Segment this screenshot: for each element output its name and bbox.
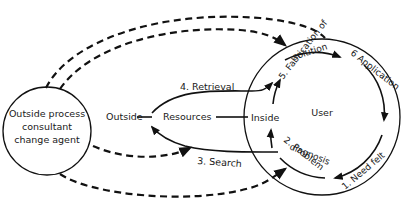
dashed-consultant-to-diagnosis xyxy=(60,169,285,197)
arrow-diagnosis-to-inside xyxy=(271,130,272,148)
application-label: 6 Application xyxy=(349,48,402,92)
search-arrow xyxy=(152,127,278,152)
need-felt-label: 1. Need felt xyxy=(340,150,387,192)
consultant-label-line-3: change agent xyxy=(14,134,80,145)
dashed-consultant-to-fabrication xyxy=(60,29,285,89)
user-label: User xyxy=(311,107,333,118)
consultant-label-line-2: consultant xyxy=(22,121,72,132)
dashed-consultant-to-search xyxy=(93,146,190,157)
arrow-inside-to-fabrication xyxy=(273,80,280,104)
diagram-canvas: Outside process consultant change agent … xyxy=(0,0,409,208)
inside-label: Inside xyxy=(251,112,279,123)
resources-label: Resources xyxy=(163,111,212,122)
consultant-node: Outside process consultant change agent xyxy=(3,87,91,175)
retrieval-label: 4. Retrieval xyxy=(180,81,234,92)
search-label: 3. Search xyxy=(197,155,242,169)
consultant-label-line-1: Outside process xyxy=(9,108,85,119)
outside-label: Outside xyxy=(106,111,143,122)
